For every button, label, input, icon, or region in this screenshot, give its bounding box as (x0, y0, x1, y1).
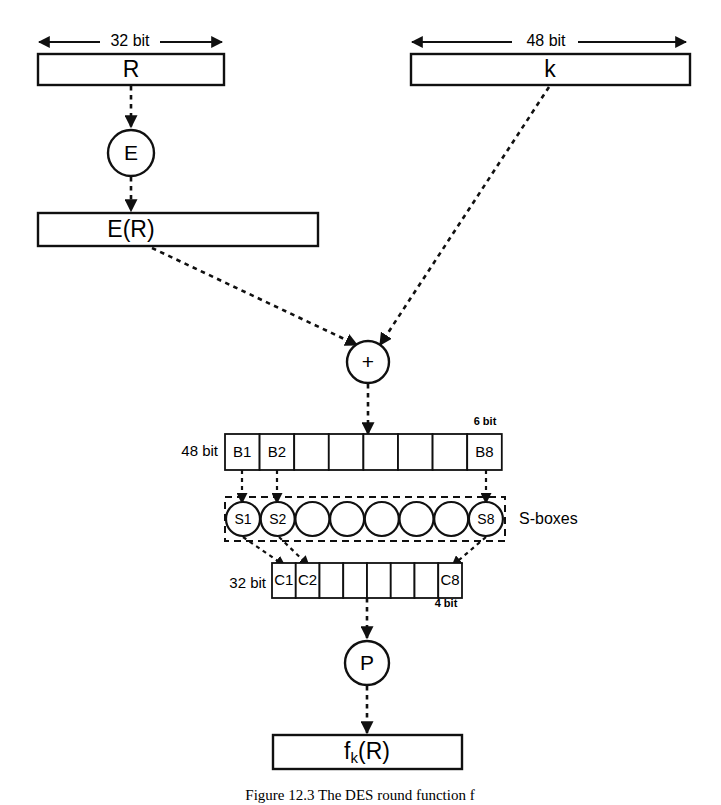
bcell-bitwidth-label: 6 bit (474, 415, 497, 427)
node-xor: + (347, 341, 389, 383)
block-er-rect (38, 213, 318, 246)
c-cell (343, 563, 367, 598)
b-cell (398, 434, 433, 470)
link-er-to-xor (152, 248, 357, 345)
b-cell-label: B2 (268, 443, 286, 460)
b-cell-label: B8 (475, 443, 493, 460)
s-row: S1S2S8 (226, 502, 503, 536)
sbox-label: S8 (477, 511, 494, 527)
block-output: fk(R) (273, 735, 462, 769)
figure-caption: Figure 12.3 The DES round function f (245, 787, 474, 803)
block-k-label: k (544, 56, 556, 82)
sbox-label: S1 (234, 511, 251, 527)
b-cell (294, 434, 329, 470)
c-cell (391, 563, 415, 598)
dimension-32bit-label: 32 bit (110, 32, 150, 49)
b-cell (433, 434, 468, 470)
b-cell (363, 434, 398, 470)
sbox-label: S2 (269, 511, 286, 527)
dimension-32bit-top: 32 bit (39, 32, 222, 49)
block-output-tail: (R) (358, 738, 390, 764)
sbox-circle (434, 502, 468, 536)
c-cell-label: C8 (441, 571, 460, 588)
c-cell-label: C2 (298, 571, 317, 588)
crow-bitwidth-label: 32 bit (229, 574, 267, 591)
node-expansion: E (108, 130, 154, 176)
block-k: k (411, 54, 690, 85)
b-cell-label: B1 (233, 443, 251, 460)
c-cell-label: C1 (274, 571, 293, 588)
des-round-function-diagram: 32 bit 48 bit R k E E(R) + 48 bit (0, 0, 721, 805)
node-permutation-label: P (360, 651, 374, 674)
dimension-48bit-label: 48 bit (526, 32, 566, 49)
sbox-circle (330, 502, 364, 536)
c-cell (320, 563, 344, 598)
sbox-circle (295, 502, 329, 536)
sboxes-title: S-boxes (519, 510, 578, 527)
dimension-48bit-top: 48 bit (412, 32, 686, 49)
c-row: C1C2C8 (272, 563, 462, 598)
sbox-circle (365, 502, 399, 536)
block-r: R (38, 54, 224, 85)
node-xor-label: + (362, 350, 374, 373)
node-expansion-label: E (124, 141, 138, 164)
c-cell (367, 563, 391, 598)
node-permutation: P (345, 641, 389, 685)
block-er: E(R) (38, 213, 318, 246)
b-cell (329, 434, 364, 470)
b-row: B1B2B8 (225, 434, 502, 470)
link-k-to-xor (380, 87, 549, 345)
diagram-canvas: 32 bit 48 bit R k E E(R) + 48 bit (0, 0, 721, 805)
c-cell (415, 563, 439, 598)
brow-bitwidth-label: 48 bit (181, 442, 219, 459)
block-r-label: R (123, 56, 140, 82)
block-er-label: E(R) (107, 216, 154, 242)
sbox-circle (400, 502, 434, 536)
